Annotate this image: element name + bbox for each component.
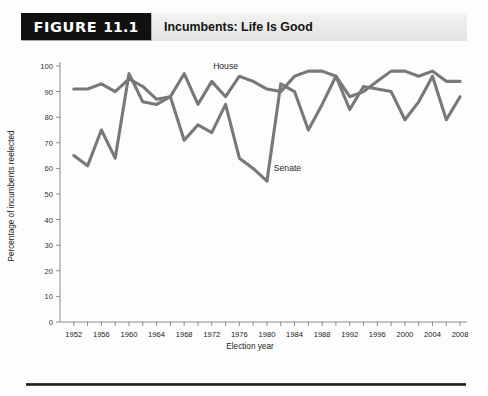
x-tick-group: 1952195619601964196819721976198019841988… xyxy=(65,322,468,339)
x-tick-label: 2008 xyxy=(452,330,469,339)
x-tick-label: 1996 xyxy=(369,330,386,339)
series-group xyxy=(74,71,460,181)
y-tick-label: 90 xyxy=(45,88,53,97)
x-tick-label: 1988 xyxy=(314,330,331,339)
x-tick-label: 1960 xyxy=(121,330,138,339)
y-tick-label: 40 xyxy=(45,216,53,225)
y-tick-group: 0102030405060708090100 xyxy=(40,62,60,327)
x-tick-label: 1992 xyxy=(341,330,358,339)
y-tick-label: 30 xyxy=(45,241,53,250)
figure-number-badge: Figure 11.1 xyxy=(21,13,151,40)
y-tick-label: 70 xyxy=(45,139,53,148)
series-label-senate: Senate xyxy=(274,163,301,173)
figure-title: Incumbents: Life Is Good xyxy=(164,13,313,40)
y-tick-label: 20 xyxy=(45,267,53,276)
y-tick-label: 80 xyxy=(45,113,53,122)
figure-container: Figure 11.1 Incumbents: Life Is Good 010… xyxy=(0,0,488,396)
line-chart: 0102030405060708090100 Percentage of inc… xyxy=(0,46,488,366)
x-tick-label: 1984 xyxy=(286,330,303,339)
x-tick-label: 1952 xyxy=(65,330,82,339)
x-axis-title: Election year xyxy=(226,342,274,351)
series-label-house: House xyxy=(213,61,238,71)
x-tick-label: 1972 xyxy=(203,330,220,339)
figure-header: Figure 11.1 Incumbents: Life Is Good xyxy=(21,13,467,40)
chart-area: 0102030405060708090100 Percentage of inc… xyxy=(0,46,488,366)
y-tick-label: 10 xyxy=(45,292,53,301)
figure-badge-number: 11.1 xyxy=(103,19,138,35)
y-tick-label: 100 xyxy=(40,62,53,71)
y-axis-title: Percentage of incumbents reelected xyxy=(7,130,16,262)
series-label-group: HouseSenate xyxy=(213,61,301,173)
y-tick-label: 50 xyxy=(45,190,53,199)
y-tick-label: 0 xyxy=(49,318,53,327)
x-tick-label: 1980 xyxy=(258,330,275,339)
x-tick-label: 1968 xyxy=(176,330,193,339)
x-tick-label: 2004 xyxy=(424,330,441,339)
x-tick-label: 2000 xyxy=(396,330,413,339)
y-tick-label: 60 xyxy=(45,164,53,173)
x-axis: 1952195619601964196819721976198019841988… xyxy=(60,322,469,351)
x-tick-label: 1956 xyxy=(93,330,110,339)
x-tick-label: 1976 xyxy=(231,330,248,339)
figure-badge-word: Figure xyxy=(34,19,98,35)
x-tick-label: 1964 xyxy=(148,330,165,339)
y-axis: 0102030405060708090100 Percentage of inc… xyxy=(7,62,60,327)
footer-divider xyxy=(26,383,466,386)
